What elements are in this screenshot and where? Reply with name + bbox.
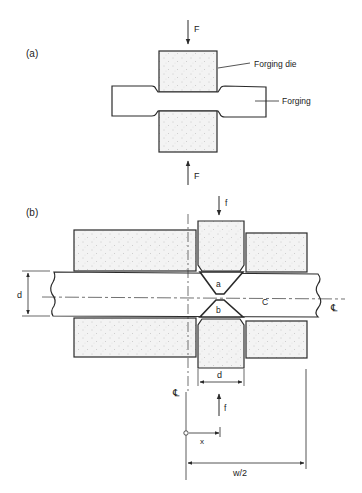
region-a-label: a bbox=[216, 279, 221, 289]
force-label-top-b: f bbox=[225, 198, 228, 208]
w-half-label: w/2 bbox=[232, 468, 247, 478]
punch-bottom-b bbox=[198, 319, 244, 368]
panel-b-label: (b) bbox=[26, 207, 38, 218]
centerline-symbol-vertical: ℄ bbox=[172, 387, 180, 398]
force-arrow-bottom-a: F bbox=[188, 161, 200, 185]
die-top-left-b bbox=[74, 230, 196, 271]
die-bottom-left-b bbox=[74, 318, 196, 357]
panel-a-label: (a) bbox=[26, 48, 38, 59]
force-arrow-bottom-b: f bbox=[219, 394, 227, 416]
force-label-bottom-a: F bbox=[194, 171, 200, 181]
callout-forging: Forging bbox=[282, 96, 311, 106]
dimension-bar-thickness: d bbox=[17, 271, 50, 316]
bar-workpiece-b bbox=[51, 272, 321, 317]
centerline-symbol-right: ℄ bbox=[330, 302, 338, 313]
region-b-label: b bbox=[216, 305, 221, 315]
die-bottom-right-b bbox=[246, 321, 307, 358]
dimension-d-left: d bbox=[17, 290, 22, 300]
force-label-top-a: F bbox=[194, 24, 200, 34]
forging-die-bottom-a bbox=[159, 111, 217, 152]
panel-b: (b) f a b C ℄ ℄ d bbox=[17, 196, 345, 480]
panel-a: (a) F F Forging die Forging bbox=[26, 20, 311, 185]
callout-forging-die: Forging die bbox=[254, 59, 297, 69]
x-label: x bbox=[200, 437, 204, 446]
leader-line-die bbox=[218, 63, 250, 68]
force-arrow-top-b: f bbox=[219, 196, 228, 215]
dimension-d-bottom: d bbox=[217, 370, 222, 380]
forging-die-top-a bbox=[159, 51, 217, 92]
origin-marker bbox=[184, 431, 188, 435]
force-label-bottom-b: f bbox=[224, 403, 227, 413]
force-arrow-top-a: F bbox=[188, 20, 200, 44]
punch-top-b bbox=[198, 221, 244, 271]
forging-diagram: (a) F F Forging die Forging (b) f bbox=[0, 0, 362, 493]
dimension-punch-width: d bbox=[198, 369, 244, 386]
die-top-right-b bbox=[246, 233, 307, 272]
